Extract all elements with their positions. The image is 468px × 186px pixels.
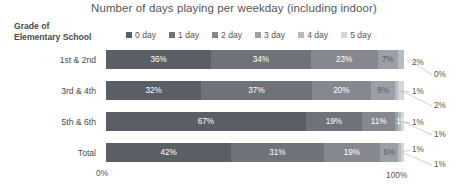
bar-segment-0-day[interactable]: 36% (106, 50, 211, 69)
bar-row: 42%31%19%6% (106, 143, 404, 162)
legend-swatch-icon (341, 32, 347, 38)
y-axis-title-line2: Elementary School (14, 32, 118, 43)
bar-segment-label: 23% (336, 55, 352, 64)
bar-segment-2-day[interactable]: 20% (312, 81, 372, 100)
bar-segment-label: 11% (371, 117, 387, 126)
bar-segment-1-day[interactable]: 19% (306, 112, 363, 131)
category-label-Total: Total (0, 148, 96, 158)
callout-label: 1% (412, 87, 424, 96)
stacked-bar: 67%19%11% (106, 112, 404, 131)
legend-swatch-icon (255, 32, 261, 38)
legend-label: 2 day (221, 30, 242, 40)
bar-segment-1-day[interactable]: 31% (231, 143, 323, 162)
callout-label: 1% (412, 145, 424, 154)
stacked-bar: 36%34%23%7% (106, 50, 404, 69)
stacked-bar: 32%37%20%8% (106, 81, 404, 100)
bar-segment-label: 67% (198, 117, 214, 126)
bar-segment-label: 42% (160, 148, 176, 157)
bar-segment-label: 8% (377, 86, 389, 95)
bar-segment-label: 19% (326, 117, 342, 126)
legend-item-5-day[interactable]: 5 day (341, 30, 371, 40)
stacked-bar-chart: Number of days playing per weekday (incl… (0, 0, 468, 186)
bar-segment-2-day[interactable]: 23% (311, 50, 378, 69)
y-axis-title-line1: Grade of (14, 21, 118, 32)
x-axis-end-label: 100% (386, 170, 407, 180)
bar-segment-label: 1% (396, 117, 408, 126)
legend-label: 3 day (264, 30, 285, 40)
callout-label: 2% (434, 101, 446, 110)
callout-label: 1% (412, 118, 424, 127)
bar-row: 36%34%23%7% (106, 50, 404, 69)
y-axis-title: Grade of Elementary School (14, 21, 118, 43)
bar-segment-0-day[interactable]: 32% (106, 81, 201, 100)
bar-segment-label: 37% (248, 86, 264, 95)
category-label-3rd---4th: 3rd & 4th (0, 86, 96, 96)
bar-segment-4-day[interactable] (398, 50, 404, 69)
bar-segment-3-day[interactable]: 6% (380, 143, 398, 162)
bar-segment-0-day[interactable]: 42% (106, 143, 231, 162)
chart-title: Number of days playing per weekday (incl… (0, 2, 468, 14)
callout-label: 1% (434, 160, 446, 169)
x-axis-start-label: 0% (96, 168, 108, 178)
bar-segment-label: 19% (344, 148, 360, 157)
bar-segment-1-day[interactable]: 34% (211, 50, 310, 69)
legend-item-2-day[interactable]: 2 day (212, 30, 242, 40)
legend-swatch-icon (169, 32, 175, 38)
bar-segment-label: 20% (333, 86, 349, 95)
category-label-5th---6th: 5th & 6th (0, 117, 96, 127)
legend-item-3-day[interactable]: 3 day (255, 30, 285, 40)
legend-item-0-day[interactable]: 0 day (126, 30, 156, 40)
callout-label: 1% (434, 130, 446, 139)
legend-swatch-icon (126, 32, 132, 38)
bar-row: 32%37%20%8% (106, 81, 404, 100)
legend-item-4-day[interactable]: 4 day (298, 30, 328, 40)
bar-segment-label: 34% (253, 55, 269, 64)
bar-segment-label: 6% (383, 148, 395, 157)
bar-row: 67%19%11% (106, 112, 404, 131)
bar-segment-label: 7% (382, 55, 394, 64)
plot-area: 36%34%23%7%1st & 2nd32%37%20%8%3rd & 4th… (106, 50, 404, 164)
legend-item-1-day[interactable]: 1 day (169, 30, 199, 40)
bar-segment-label: 32% (145, 86, 161, 95)
callout-label: 2% (412, 58, 424, 67)
callout-label: 0% (434, 70, 446, 79)
category-label-1st---2nd: 1st & 2nd (0, 55, 96, 65)
chart-legend: 0 day1 day2 day3 day4 day5 day (126, 28, 416, 41)
bar-segment-0-day[interactable]: 67% (106, 112, 306, 131)
bar-segment-5-day[interactable] (398, 81, 404, 100)
bar-segment-label: 36% (150, 55, 166, 64)
bar-segment-5-day[interactable] (401, 143, 404, 162)
bar-segment-3-day[interactable]: 8% (371, 81, 395, 100)
legend-label: 1 day (178, 30, 199, 40)
bar-segment-2-day[interactable]: 11% (362, 112, 395, 131)
legend-swatch-icon (212, 32, 218, 38)
legend-label: 4 day (307, 30, 328, 40)
legend-swatch-icon (298, 32, 304, 38)
legend-label: 5 day (350, 30, 371, 40)
bar-segment-3-day[interactable]: 7% (378, 50, 398, 69)
bar-segment-1-day[interactable]: 37% (201, 81, 311, 100)
legend-label: 0 day (135, 30, 156, 40)
bar-segment-2-day[interactable]: 19% (324, 143, 381, 162)
bar-segment-label: 31% (269, 148, 285, 157)
stacked-bar: 42%31%19%6% (106, 143, 404, 162)
